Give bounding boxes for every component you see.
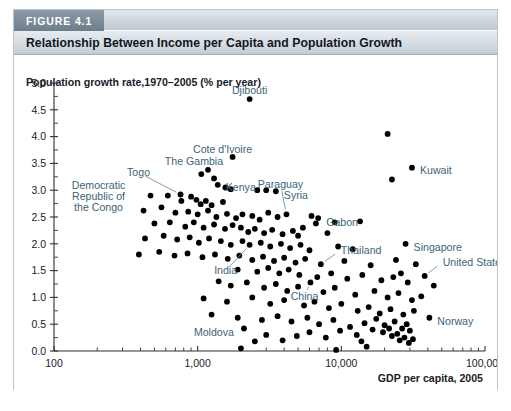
data-point: [216, 278, 222, 284]
data-point: [309, 213, 315, 219]
data-point: [228, 283, 234, 289]
x-tick-label: 10,000: [325, 357, 357, 369]
data-point: [362, 320, 368, 326]
data-point-labeled: [241, 326, 247, 332]
data-point: [313, 221, 319, 227]
data-point: [326, 305, 332, 311]
data-point: [233, 215, 239, 221]
y-tick-label: 4.0: [31, 130, 46, 142]
data-point: [278, 241, 284, 247]
data-point: [400, 312, 406, 318]
annotation-leader-line: [145, 176, 176, 192]
data-point: [293, 260, 299, 266]
data-point: [409, 297, 415, 303]
annotation-leader-line: [325, 254, 335, 261]
data-point: [161, 233, 167, 239]
data-point: [398, 270, 404, 276]
data-point: [385, 131, 391, 137]
data-point: [196, 240, 202, 246]
data-point: [258, 240, 264, 246]
data-point: [263, 332, 269, 338]
annotation-label: Moldova: [194, 326, 234, 338]
data-point: [187, 234, 193, 240]
data-point: [225, 256, 231, 262]
data-point: [185, 209, 191, 215]
data-point-labeled: [409, 165, 415, 171]
x-tick-label: 100,000: [466, 357, 497, 369]
data-point: [290, 228, 296, 234]
data-point: [330, 317, 336, 323]
data-point-labeled: [247, 242, 253, 248]
annotation-label: the Congo: [74, 201, 123, 213]
data-point: [194, 197, 200, 203]
data-point-labeled: [403, 241, 409, 247]
data-point: [404, 321, 410, 327]
data-point: [228, 242, 234, 248]
plot-body: Population growth rate,1970–2005 (% per …: [14, 56, 497, 390]
data-point: [388, 306, 394, 312]
y-tick-label: 5.0: [31, 77, 46, 89]
data-point: [325, 230, 331, 236]
data-point: [185, 251, 191, 257]
data-point: [159, 204, 165, 210]
data-point: [304, 315, 310, 321]
data-point: [284, 288, 290, 294]
figure-card: FIGURE 4.1 Relationship Between Income p…: [13, 9, 498, 390]
data-point: [364, 344, 370, 350]
annotation-label: Thailand: [341, 244, 382, 256]
data-point: [275, 313, 281, 319]
data-point: [307, 329, 313, 335]
data-point: [296, 272, 302, 278]
annotation-label: India: [214, 264, 237, 276]
y-tick-label: 2.5: [31, 211, 46, 223]
annotation-label: Paraguay: [258, 178, 304, 190]
y-tick-label: 3.5: [31, 157, 46, 169]
data-point: [396, 290, 402, 296]
data-point: [249, 213, 255, 219]
data-point: [182, 224, 188, 230]
data-point: [359, 272, 365, 278]
data-point: [373, 316, 379, 322]
data-point: [332, 285, 338, 291]
data-point: [213, 214, 219, 220]
data-point: [245, 229, 251, 235]
data-point: [405, 279, 411, 285]
data-point-labeled: [205, 167, 211, 173]
data-point: [240, 211, 246, 217]
data-point: [411, 308, 417, 314]
data-point: [218, 238, 224, 244]
data-point: [281, 255, 287, 261]
data-point: [301, 303, 307, 309]
annotation-label: United States: [443, 256, 497, 268]
data-point: [372, 288, 378, 294]
data-point: [366, 304, 372, 310]
data-point: [354, 332, 360, 338]
data-point-labeled: [215, 182, 221, 188]
data-point-labeled: [148, 193, 154, 199]
annotation-leader-line: [429, 266, 438, 273]
data-point: [316, 321, 322, 327]
data-point-labeled: [422, 273, 428, 279]
data-point: [265, 210, 271, 216]
data-point: [300, 225, 306, 231]
data-point: [389, 333, 395, 339]
data-point-labeled: [247, 96, 253, 102]
data-point: [136, 252, 142, 258]
data-point: [352, 292, 358, 298]
x-tick-label: 1,000: [185, 357, 211, 369]
data-point: [220, 199, 226, 205]
figure-title: Relationship Between Income per Capita a…: [26, 36, 402, 50]
y-tick-label: 3.0: [31, 184, 46, 196]
data-point: [407, 328, 413, 334]
x-tick-label: 100: [45, 357, 63, 369]
data-point: [235, 315, 241, 321]
data-point: [377, 311, 383, 317]
scatter-plot: 0.00.51.01.52.02.53.03.54.04.55.01001,00…: [14, 56, 497, 390]
data-point: [314, 274, 320, 280]
data-point: [280, 337, 286, 343]
data-point: [174, 237, 180, 243]
y-tick-label: 4.5: [31, 104, 46, 116]
data-point: [260, 254, 266, 260]
data-point-labeled: [426, 315, 432, 321]
data-point: [394, 331, 400, 337]
